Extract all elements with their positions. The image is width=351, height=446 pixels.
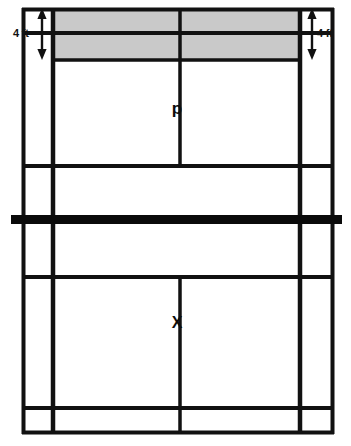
dimension-arrow-right-head-down <box>307 49 316 60</box>
court-vector-graphic <box>0 0 351 446</box>
dimension-arrow-left-head-down <box>37 49 46 60</box>
net-line <box>11 215 342 224</box>
dimension-label-left: 4 ft <box>13 27 29 39</box>
shaded-region-upper <box>52 8 301 33</box>
tennis-court-diagram: 4 ft 4 ft p X <box>0 0 351 446</box>
dimension-label-right: 4 ft <box>317 27 333 39</box>
shaded-region-lower <box>52 33 301 60</box>
point-label-x: X <box>172 315 183 331</box>
point-label-p: p <box>172 100 182 117</box>
